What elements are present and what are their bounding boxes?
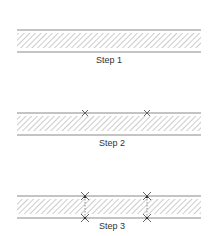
step-1: Step 1 <box>17 30 201 65</box>
step-2-label: Step 2 <box>99 138 125 148</box>
step-3: Step 3 <box>17 192 201 231</box>
step-diagram: Step 1 Step 2 <box>0 0 211 236</box>
junction-dot <box>146 217 149 220</box>
junction-dot <box>84 217 87 220</box>
step-3-label: Step 3 <box>99 221 125 231</box>
step-3-hatched-layer <box>17 199 201 214</box>
step-1-label: Step 1 <box>96 55 122 65</box>
step-2: Step 2 <box>17 110 201 148</box>
junction-dot <box>146 196 149 199</box>
step-2-hatched-layer <box>17 116 201 131</box>
junction-dot <box>84 196 87 199</box>
step-1-hatched-layer <box>17 33 201 48</box>
